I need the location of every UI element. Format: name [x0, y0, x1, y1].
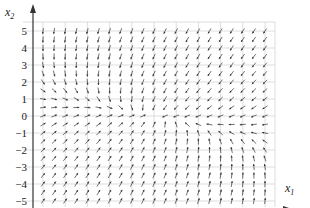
arrowhead-icon — [86, 75, 88, 77]
x-axis-arrowhead-icon — [283, 206, 292, 208]
arrowhead-icon — [186, 130, 188, 132]
arrowhead-icon — [42, 49, 44, 51]
arrowhead-icon — [253, 181, 255, 183]
axes — [30, 4, 292, 208]
arrowhead-icon — [220, 156, 222, 158]
y-tick-label: 3 — [22, 59, 28, 71]
arrowhead-icon — [218, 123, 220, 125]
arrowhead-icon — [264, 190, 266, 192]
arrowhead-icon — [64, 66, 66, 68]
y-tick-label: −1 — [15, 127, 27, 139]
y-tick-label: −4 — [15, 178, 27, 190]
arrowhead-icon — [231, 156, 233, 158]
arrowhead-icon — [253, 164, 255, 166]
arrowhead-icon — [253, 173, 255, 175]
arrowhead-icon — [64, 58, 66, 60]
y-tick-label: −3 — [15, 161, 27, 173]
arrowhead-icon — [208, 147, 210, 149]
arrowhead-icon — [197, 139, 199, 141]
arrowhead-icon — [97, 83, 99, 85]
arrowhead-icon — [77, 106, 79, 108]
arrowhead-icon — [53, 58, 55, 60]
y-tick-label: 1 — [22, 93, 28, 105]
arrowhead-icon — [53, 66, 55, 68]
y-tick-label: −2 — [15, 144, 27, 156]
arrowhead-icon — [42, 58, 44, 60]
arrowhead-icon — [75, 75, 77, 77]
arrowhead-icon — [242, 164, 244, 166]
arrowhead-icon — [264, 181, 266, 183]
y-tick-label: 0 — [22, 110, 28, 122]
y-tick-label: 2 — [22, 76, 28, 88]
arrowhead-icon — [53, 49, 55, 51]
arrowhead-icon — [88, 107, 90, 109]
y-tick-label: −5 — [15, 195, 27, 207]
arrowhead-icon — [120, 100, 122, 102]
arrowhead-icon — [219, 147, 221, 149]
x-axis-label: x1 — [284, 181, 294, 197]
direction-field-chart: 543210−1−2−3−4−5−5−4−3−2−1012345 x2 x1 — [0, 0, 310, 208]
arrowhead-icon — [242, 173, 244, 175]
arrowhead-icon — [229, 123, 231, 125]
grid-lines — [23, 22, 275, 207]
arrowhead-icon — [231, 164, 233, 166]
arrowhead-icon — [42, 40, 44, 42]
arrowhead-icon — [264, 173, 266, 175]
arrowhead-icon — [66, 106, 68, 108]
arrowhead-icon — [75, 66, 77, 68]
y-tick-label: 5 — [22, 25, 28, 37]
arrowhead-icon — [109, 92, 111, 94]
y-axis-label: x2 — [4, 5, 14, 21]
arrowhead-icon — [86, 83, 88, 85]
arrowhead-icon — [240, 124, 242, 126]
y-tick-label: 4 — [22, 42, 28, 54]
y-axis-arrowhead-icon — [30, 4, 36, 13]
